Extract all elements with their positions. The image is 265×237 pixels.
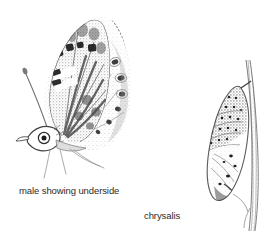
chrysalis-figure	[200, 58, 265, 233]
caption-male-showing-underside: male showing underside	[19, 185, 119, 196]
illustration-plate: male showing underside chrysalis	[0, 0, 265, 237]
antenna-club	[22, 67, 28, 75]
twig-branch	[244, 208, 250, 228]
legs	[44, 149, 104, 178]
silk-girdle	[233, 194, 248, 212]
eye	[38, 132, 49, 143]
butterfly-figure	[8, 8, 140, 180]
caption-chrysalis: chrysalis	[144, 210, 180, 221]
